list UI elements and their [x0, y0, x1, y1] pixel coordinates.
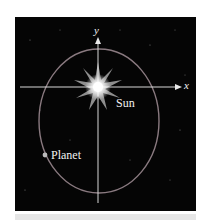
planet-icon: [43, 153, 48, 158]
y-axis-label: y: [94, 24, 99, 36]
planet-label: Planet: [51, 148, 81, 163]
x-axis-arrow-icon: [175, 84, 182, 90]
sun-label: Sun: [116, 96, 135, 111]
stars: [24, 30, 185, 191]
bottom-strip: [15, 214, 196, 220]
x-axis-label: x: [184, 79, 189, 91]
orbit-diagram: [0, 0, 210, 222]
y-axis-arrow-icon: [95, 37, 101, 44]
